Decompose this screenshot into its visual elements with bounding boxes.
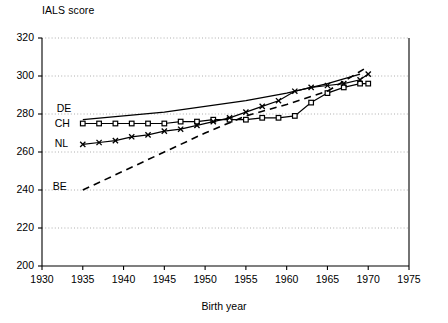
x-tick-label: 1975: [389, 273, 429, 285]
x-tick-label: 1945: [144, 273, 184, 285]
series-label-be: BE: [53, 180, 67, 192]
data-point-marker-ch: [309, 100, 314, 105]
series-line-be: [83, 67, 368, 191]
series-label-de: DE: [57, 102, 72, 114]
data-point-marker-ch: [276, 116, 281, 121]
data-point-marker-ch: [97, 121, 102, 126]
x-tick-label: 1965: [307, 273, 347, 285]
x-tick-label: 1950: [185, 273, 225, 285]
data-point-marker-ch: [293, 114, 298, 119]
x-tick-label: 1960: [267, 273, 307, 285]
data-point-marker-ch: [178, 119, 183, 124]
data-point-marker-ch: [129, 121, 134, 126]
series-label-nl: NL: [55, 137, 68, 149]
series-label-ch: CH: [55, 117, 70, 129]
x-tick-label: 1935: [63, 273, 103, 285]
data-point-marker-ch: [146, 121, 151, 126]
y-tick-label: 320: [4, 31, 34, 43]
y-tick-label: 280: [4, 107, 34, 119]
x-axis-title: Birth year: [0, 300, 448, 312]
y-tick-label: 260: [4, 145, 34, 157]
chart-figure: IALS score Birth year DE CH NL BE 200220…: [0, 0, 448, 323]
data-point-marker-ch: [260, 116, 265, 121]
data-point-marker-ch: [80, 121, 85, 126]
data-point-marker-ch: [366, 81, 371, 86]
data-point-marker-ch: [162, 121, 167, 126]
y-tick-label: 300: [4, 69, 34, 81]
x-tick-label: 1930: [22, 273, 62, 285]
y-tick-label: 200: [4, 259, 34, 271]
x-tick-label: 1970: [348, 273, 388, 285]
y-tick-label: 240: [4, 183, 34, 195]
x-tick-label: 1955: [226, 273, 266, 285]
x-tick-label: 1940: [104, 273, 144, 285]
y-tick-label: 220: [4, 221, 34, 233]
data-point-marker-ch: [244, 117, 249, 122]
data-point-marker-ch: [113, 121, 118, 126]
series-line-de: [83, 74, 360, 120]
